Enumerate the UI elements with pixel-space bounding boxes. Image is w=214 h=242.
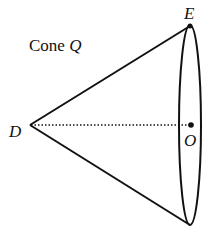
cone-diagram: Cone Q E D O	[0, 0, 214, 242]
slant-edge-bottom	[30, 125, 190, 225]
label-d: D	[8, 122, 22, 141]
label-e: E	[183, 4, 195, 23]
point-e-dot	[188, 24, 193, 29]
point-o-dot	[188, 122, 194, 128]
label-o: O	[184, 131, 196, 150]
cone-title: Cone Q	[29, 36, 81, 55]
